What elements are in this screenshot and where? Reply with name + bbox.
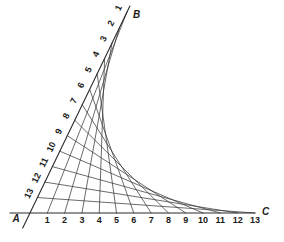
tick-label-ac: 12 [233, 215, 243, 225]
tick-label-ac: 3 [79, 215, 84, 225]
tick-label-ac: 5 [114, 215, 119, 225]
tick-label-ac: 2 [62, 215, 67, 225]
envelope-diagram: 1234567891011121312345678910111213 A B C [0, 0, 284, 242]
tick-label-ac: 7 [149, 215, 154, 225]
tick-label-ac: 6 [131, 215, 136, 225]
tick-label-ac: 8 [166, 215, 171, 225]
vertex-label-a: A [11, 213, 19, 224]
vertex-label-c: C [262, 206, 270, 217]
tick-label-ac: 13 [250, 215, 260, 225]
figure-background [0, 0, 284, 242]
tick-label-ac: 10 [198, 215, 208, 225]
tick-label-ac: 4 [97, 215, 102, 225]
tick-label-ac: 9 [183, 215, 188, 225]
tick-label-ac: 11 [216, 215, 226, 225]
vertex-label-b: B [133, 9, 140, 20]
tick-label-ac: 1 [45, 215, 50, 225]
